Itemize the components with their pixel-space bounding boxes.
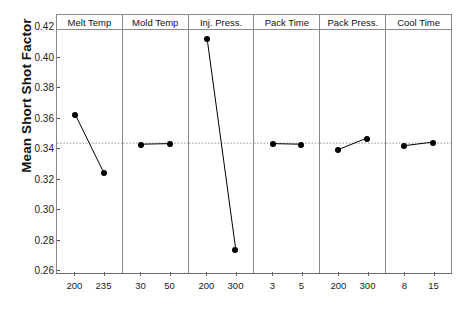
y-axis-ticks: 0.260.280.300.320.340.360.380.400.42 bbox=[18, 26, 54, 274]
x-tick-group: 200300 bbox=[320, 276, 386, 296]
x-tick-label: 15 bbox=[428, 280, 439, 291]
panel-header-mold-temp: Mold Temp bbox=[123, 15, 189, 29]
x-tick-group: 35 bbox=[254, 276, 320, 296]
data-point bbox=[430, 140, 436, 146]
y-tick-label: 0.34 bbox=[35, 143, 54, 154]
panel-header-inj-press: Inj. Press. bbox=[189, 15, 255, 29]
data-point bbox=[101, 170, 107, 176]
panel-header-pack-time: Pack Time bbox=[254, 15, 320, 29]
x-tick-mark bbox=[368, 272, 369, 276]
x-tick-label: 300 bbox=[360, 280, 376, 291]
panel-series-svg bbox=[123, 30, 188, 273]
y-tick-label: 0.26 bbox=[35, 265, 54, 276]
main-effects-plot: Mean Short Shot Factor 0.260.280.300.320… bbox=[0, 0, 460, 323]
x-axis-tick-row: 200235305020030035200300815 bbox=[56, 276, 452, 296]
x-tick-label: 200 bbox=[67, 280, 83, 291]
x-tick-mark bbox=[302, 272, 303, 276]
y-tick-label: 0.42 bbox=[35, 21, 54, 32]
x-tick-group: 3050 bbox=[122, 276, 188, 296]
panel-cool-time bbox=[386, 30, 451, 273]
series-line bbox=[141, 144, 170, 145]
panel-mold-temp bbox=[123, 30, 189, 273]
data-point bbox=[204, 36, 210, 42]
panel-series-svg bbox=[189, 30, 254, 273]
x-tick-group: 200235 bbox=[56, 276, 122, 296]
panel-pack-press bbox=[320, 30, 386, 273]
panel-melt-temp bbox=[57, 30, 123, 273]
data-point bbox=[270, 141, 276, 147]
x-tick-label: 5 bbox=[299, 280, 304, 291]
y-tick-label: 0.38 bbox=[35, 82, 54, 93]
series-line bbox=[404, 142, 433, 146]
x-tick-label: 8 bbox=[402, 280, 407, 291]
panel-series-svg bbox=[320, 30, 385, 273]
x-tick-label: 200 bbox=[199, 280, 215, 291]
data-point bbox=[364, 136, 370, 142]
panel-pack-time bbox=[254, 30, 320, 273]
x-tick-label: 30 bbox=[135, 280, 146, 291]
x-tick-mark bbox=[272, 272, 273, 276]
x-tick-mark bbox=[140, 272, 141, 276]
series-line bbox=[338, 138, 367, 150]
data-point bbox=[167, 141, 173, 147]
series-line bbox=[207, 39, 236, 249]
data-point bbox=[138, 142, 144, 148]
x-tick-mark bbox=[74, 272, 75, 276]
panel-series-svg bbox=[254, 30, 319, 273]
series-line bbox=[273, 144, 302, 145]
x-tick-mark bbox=[236, 272, 237, 276]
y-tick-label: 0.30 bbox=[35, 204, 54, 215]
x-tick-mark bbox=[206, 272, 207, 276]
y-tick-label: 0.32 bbox=[35, 173, 54, 184]
x-tick-label: 300 bbox=[228, 280, 244, 291]
panel-header-pack-press: Pack Press. bbox=[320, 15, 386, 29]
x-tick-group: 200300 bbox=[188, 276, 254, 296]
x-tick-mark bbox=[170, 272, 171, 276]
x-tick-label: 235 bbox=[96, 280, 112, 291]
x-tick-label: 200 bbox=[331, 280, 347, 291]
x-tick-label: 3 bbox=[270, 280, 275, 291]
x-tick-group: 815 bbox=[386, 276, 452, 296]
panel-series-svg bbox=[386, 30, 451, 273]
y-tick-label: 0.40 bbox=[35, 51, 54, 62]
panel-series-svg bbox=[57, 30, 122, 273]
x-tick-mark bbox=[434, 272, 435, 276]
data-point bbox=[298, 142, 304, 148]
panel-header-melt-temp: Melt Temp bbox=[57, 15, 123, 29]
x-tick-mark bbox=[104, 272, 105, 276]
panel-inj-press bbox=[189, 30, 255, 273]
x-tick-mark bbox=[404, 272, 405, 276]
y-tick-label: 0.36 bbox=[35, 112, 54, 123]
panel-header-cool-time: Cool Time bbox=[386, 15, 451, 29]
x-tick-mark bbox=[338, 272, 339, 276]
plot-area: Melt TempMold TempInj. Press.Pack TimePa… bbox=[56, 14, 452, 274]
x-tick-label: 50 bbox=[164, 280, 175, 291]
panel-header-row: Melt TempMold TempInj. Press.Pack TimePa… bbox=[56, 14, 452, 30]
panel-plot-row bbox=[56, 30, 452, 274]
data-point bbox=[72, 112, 78, 118]
y-tick-label: 0.28 bbox=[35, 234, 54, 245]
